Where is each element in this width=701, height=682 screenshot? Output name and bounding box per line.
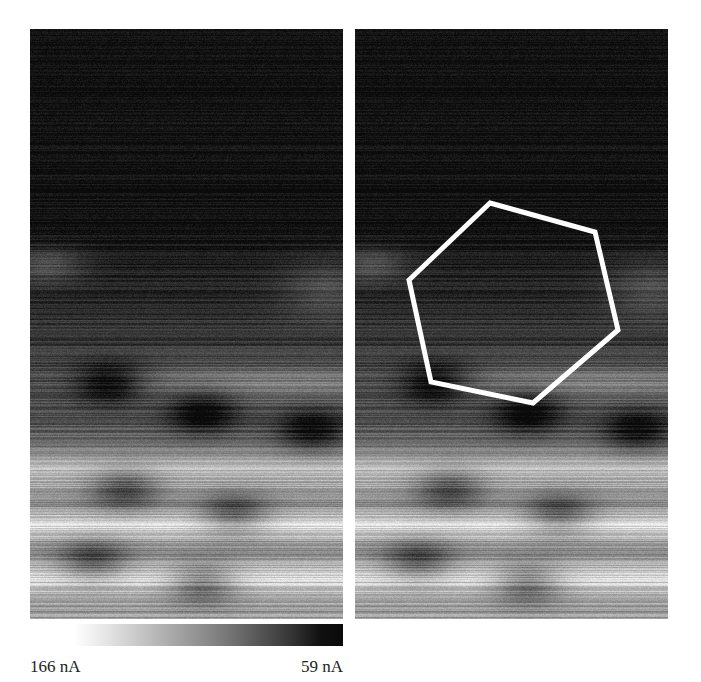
- colorbar-max-label: 59 nA: [285, 657, 343, 677]
- stm-image-right: [355, 29, 668, 619]
- stm-image-left-raster: [30, 29, 343, 619]
- colorbar-min-label: 166 nA: [30, 657, 81, 677]
- hexagon-overlay: [355, 29, 668, 619]
- stm-image-left: [30, 29, 343, 619]
- colorbar: [30, 624, 343, 646]
- hexagon-outline: [409, 203, 618, 403]
